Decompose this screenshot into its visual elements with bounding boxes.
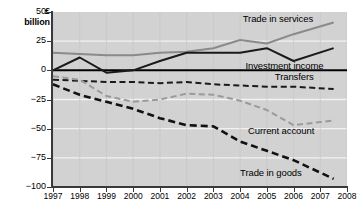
y-tick-label: −50 bbox=[2, 123, 46, 133]
x-tick-mark bbox=[213, 188, 214, 192]
y-tick-mark bbox=[47, 41, 52, 42]
series-paths bbox=[53, 23, 334, 179]
x-tick-label: 2006 bbox=[279, 191, 309, 201]
x-tick-mark bbox=[240, 188, 241, 192]
x-tick-label: 2001 bbox=[145, 191, 175, 201]
x-tick-label: 2005 bbox=[252, 191, 282, 201]
x-tick-mark bbox=[347, 188, 348, 192]
x-tick-label: 2003 bbox=[198, 191, 228, 201]
y-tick-mark bbox=[47, 158, 52, 159]
y-axis-unit-magnitude: billion bbox=[6, 17, 50, 28]
series-line-trade-in-services bbox=[53, 23, 334, 56]
x-tick-mark bbox=[267, 188, 268, 192]
y-tick-label: 50 bbox=[2, 6, 46, 16]
plot-area bbox=[53, 12, 347, 187]
x-tick-mark bbox=[320, 188, 321, 192]
x-tick-mark bbox=[160, 188, 161, 192]
x-tick-mark bbox=[133, 188, 134, 192]
x-tick-label: 2000 bbox=[118, 191, 148, 201]
x-tick-mark bbox=[294, 188, 295, 192]
y-tick-mark bbox=[47, 70, 52, 71]
y-tick-label: 0 bbox=[2, 64, 46, 74]
y-tick-mark bbox=[47, 129, 52, 130]
x-tick-label: 2002 bbox=[172, 191, 202, 201]
series-label-current-account: Current account bbox=[248, 125, 314, 136]
x-tick-label: 1997 bbox=[38, 191, 68, 201]
y-tick-label: −75 bbox=[2, 152, 46, 162]
x-tick-label: 1999 bbox=[91, 191, 121, 201]
x-tick-mark bbox=[187, 188, 188, 192]
x-tick-label: 2007 bbox=[305, 191, 335, 201]
y-tick-label: −100 bbox=[2, 181, 46, 191]
x-tick-mark bbox=[53, 188, 54, 192]
y-tick-label: −25 bbox=[2, 94, 46, 104]
x-tick-mark bbox=[80, 188, 81, 192]
y-tick-label: 25 bbox=[2, 35, 46, 45]
x-axis-line bbox=[51, 186, 348, 188]
current-account-line-chart: £ billion 50250−25−50−75−100 19971998199… bbox=[0, 0, 361, 217]
series-label-transfers: Transfers bbox=[275, 71, 314, 82]
x-tick-mark bbox=[106, 188, 107, 192]
x-tick-label: 1998 bbox=[65, 191, 95, 201]
y-tick-mark bbox=[47, 187, 52, 188]
series-label-trade-in-goods: Trade in goods bbox=[240, 167, 302, 178]
series-label-investment-income: Investment income bbox=[245, 60, 323, 71]
series-label-trade-in-services: Trade in services bbox=[243, 13, 313, 24]
series-line-current-account bbox=[53, 76, 334, 125]
y-tick-mark bbox=[47, 12, 52, 13]
plot-canvas bbox=[53, 12, 347, 187]
x-tick-label: 2008 bbox=[332, 191, 361, 201]
y-tick-mark bbox=[47, 100, 52, 101]
x-tick-label: 2004 bbox=[225, 191, 255, 201]
